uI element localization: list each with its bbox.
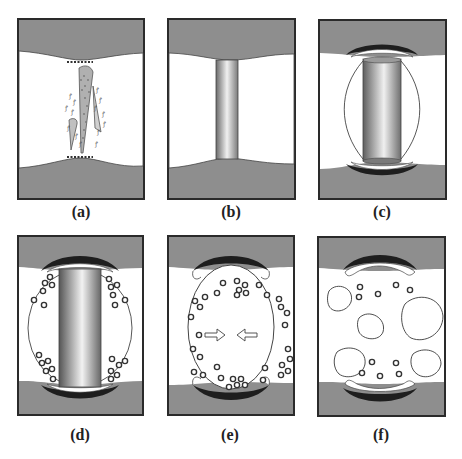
svg-text:ꝭ: ꝭ — [102, 120, 106, 128]
svg-text:ꝭ: ꝭ — [72, 98, 76, 106]
svg-text:ꝭ: ꝭ — [101, 110, 105, 118]
panel-b — [167, 18, 296, 200]
panel-f — [317, 236, 446, 417]
panel-e — [167, 235, 295, 416]
panel-d-diagram — [17, 235, 144, 416]
panel-b-label: (b) — [201, 203, 261, 221]
svg-text:ꝭ: ꝭ — [74, 132, 78, 140]
panel-d-label: (d) — [50, 426, 110, 444]
svg-text:ꝭ: ꝭ — [66, 124, 70, 132]
panel-a: ꝭꝭꝭꝭ ꝭꝭꝭꝭ ꝭꝭꝭꝭ ꝭꝭ — [17, 18, 145, 200]
panel-e-label: (e) — [200, 426, 260, 444]
svg-text:ꝭ: ꝭ — [68, 92, 72, 100]
panel-f-label: (f) — [351, 426, 411, 444]
svg-text:ꝭ: ꝭ — [64, 104, 68, 112]
panel-a-label: (a) — [51, 203, 111, 221]
panel-d — [17, 235, 144, 416]
panel-c-diagram — [318, 19, 447, 200]
panel-c-label: (c) — [352, 203, 412, 221]
panel-e-diagram — [167, 235, 295, 416]
svg-text:ꝭ: ꝭ — [70, 108, 74, 116]
svg-text:ꝭ: ꝭ — [95, 86, 99, 94]
svg-text:ꝭ: ꝭ — [96, 128, 100, 136]
panel-f-diagram — [317, 236, 446, 417]
svg-text:ꝭ: ꝭ — [94, 140, 98, 148]
svg-text:ꝭ: ꝭ — [78, 140, 82, 148]
svg-text:ꝭ: ꝭ — [93, 104, 97, 112]
panel-c — [318, 19, 447, 200]
panel-a-diagram: ꝭꝭꝭꝭ ꝭꝭꝭꝭ ꝭꝭꝭꝭ ꝭꝭ — [17, 18, 145, 200]
panel-b-diagram — [167, 18, 296, 200]
svg-text:ꝭ: ꝭ — [98, 96, 102, 104]
